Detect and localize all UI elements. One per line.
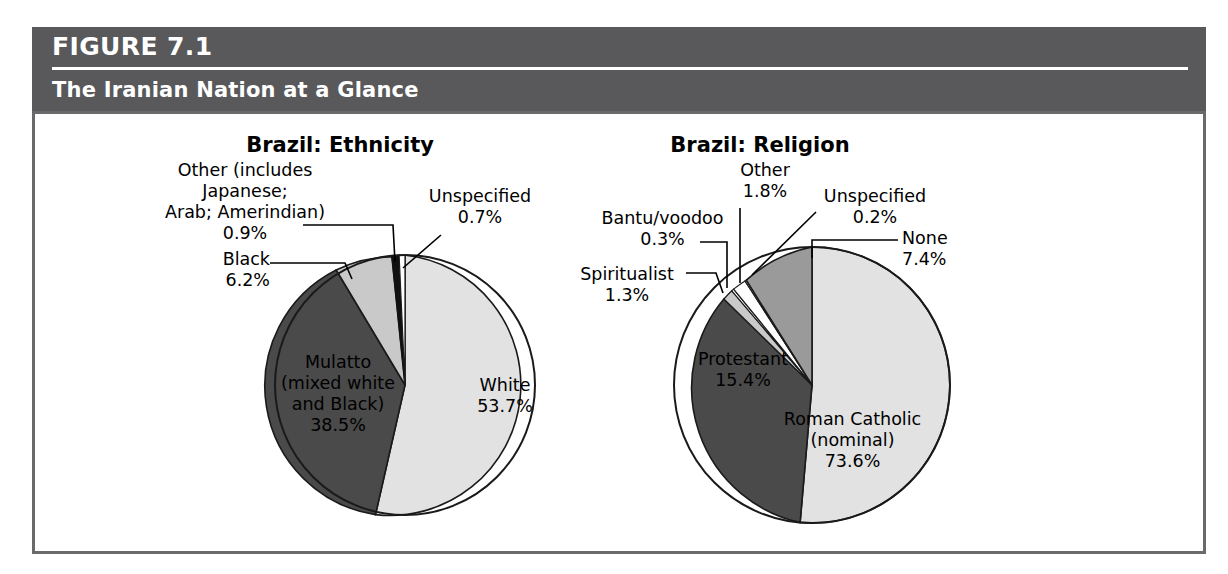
figure-content-frame xyxy=(32,111,1206,554)
figure-header-band: FIGURE 7.1 The Iranian Nation at a Glanc… xyxy=(32,27,1206,111)
figure-number: FIGURE 7.1 xyxy=(52,31,213,63)
header-divider xyxy=(52,67,1188,70)
figure-subtitle: The Iranian Nation at a Glance xyxy=(52,75,419,105)
figure-root: FIGURE 7.1 The Iranian Nation at a Glanc… xyxy=(0,0,1228,574)
